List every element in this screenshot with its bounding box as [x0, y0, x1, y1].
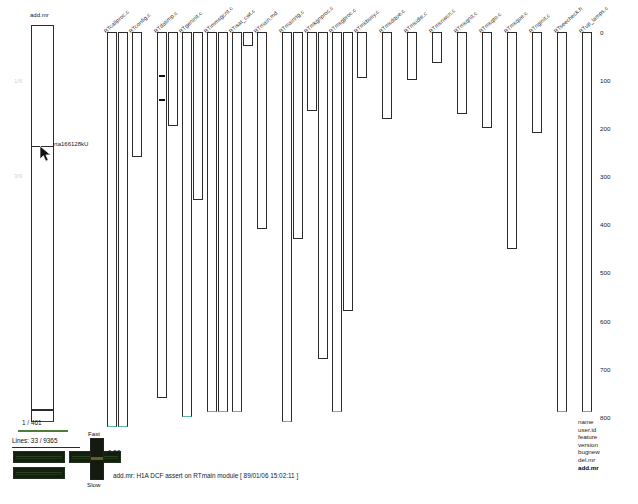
file-column-segment[interactable]	[557, 32, 567, 412]
file-column-segment[interactable]	[432, 32, 442, 63]
panel-button-1[interactable]	[13, 451, 65, 463]
speed-slider-track[interactable]	[90, 438, 104, 480]
file-column-segment[interactable]	[407, 32, 417, 80]
file-column-segment[interactable]	[482, 32, 492, 128]
change-line-marker[interactable]	[159, 75, 165, 77]
file-column-segment[interactable]	[332, 32, 342, 412]
legend-item-version[interactable]: version	[578, 441, 600, 449]
legend-item-bugnew[interactable]: bugnew	[578, 448, 600, 456]
change-line-marker[interactable]	[159, 99, 165, 101]
legend-item-del-mr[interactable]: del.mr	[578, 456, 600, 464]
file-column-segment[interactable]	[318, 32, 328, 359]
file-column-segment[interactable]	[382, 32, 392, 119]
speed-slider-thumb[interactable]	[91, 457, 103, 460]
file-column-segment[interactable]	[168, 32, 178, 126]
page-progress-bar[interactable]	[18, 430, 68, 432]
file-column-segment[interactable]	[582, 32, 592, 412]
axis-tick-300: 300	[600, 173, 610, 180]
file-column-segment[interactable]	[182, 32, 192, 417]
arrow-cursor-icon	[40, 146, 53, 163]
legend-item-feature[interactable]: feature	[578, 433, 600, 441]
axis-tick-700: 700	[600, 366, 610, 373]
file-column-segment[interactable]	[507, 32, 517, 249]
file-column-label: RTdatimp.c	[153, 11, 179, 35]
line-counter: Lines: 33 / 9365	[12, 437, 57, 444]
file-column-segment[interactable]	[107, 32, 117, 427]
axis-tick-500: 500	[600, 269, 610, 276]
speed-slow-label: Slow	[87, 481, 100, 488]
file-column-segment[interactable]	[232, 32, 242, 412]
summary-ghost-label-top: 1/6	[14, 78, 22, 84]
file-column-segment[interactable]	[282, 32, 292, 422]
legend-item-add-mr[interactable]: add.mr	[578, 464, 600, 472]
attribute-legend: nameuser.idfeatureversionbugnewdel.mradd…	[578, 418, 600, 471]
file-column-segment[interactable]	[357, 32, 367, 78]
file-column-label: RTmsbusy.c	[353, 9, 380, 34]
panel-button-3[interactable]	[13, 467, 65, 479]
seesoft-visualization-window: add.mr 1/6 3/9 rta166128kU RTcallproc.cR…	[0, 0, 638, 504]
file-column-segment[interactable]	[343, 32, 353, 311]
page-counter: 1 / 461	[22, 419, 42, 426]
file-column-segment[interactable]	[157, 32, 167, 398]
status-message: add.mr: H1A DCF assert on RTmain module …	[113, 472, 298, 479]
legend-item-name[interactable]: name	[578, 418, 600, 426]
file-column-segment[interactable]	[193, 32, 203, 200]
file-column-segment[interactable]	[532, 32, 542, 133]
summary-column-title: add.mr	[30, 12, 49, 18]
file-column-segment[interactable]	[293, 32, 303, 239]
axis-tick-600: 600	[600, 318, 610, 325]
file-column-segment[interactable]	[118, 32, 128, 427]
file-column-segment[interactable]	[132, 32, 142, 157]
file-column-label: RTmsnwcn.c	[428, 8, 456, 34]
file-column-segment[interactable]	[243, 32, 253, 46]
axis-tick-0: 0	[600, 29, 603, 36]
file-column-label: RTisat_cwt.c	[228, 8, 256, 34]
file-column-segment[interactable]	[307, 32, 317, 111]
file-column-segment[interactable]	[457, 32, 467, 114]
axis-tick-200: 200	[600, 125, 610, 132]
hover-tooltip: rta166128kU	[54, 141, 88, 147]
legend-item-user-id[interactable]: user.id	[578, 426, 600, 434]
file-column-label: RTmain.md	[253, 11, 279, 35]
axis-tick-400: 400	[600, 221, 610, 228]
axis-tick-800: 800	[600, 414, 610, 421]
axis-tick-100: 100	[600, 77, 610, 84]
summary-ghost-label-bottom: 3/9	[14, 173, 22, 179]
summary-column-bar[interactable]	[31, 25, 54, 410]
speed-fast-label: Fast	[88, 430, 100, 437]
file-column-segment[interactable]	[218, 32, 228, 412]
file-column-segment[interactable]	[207, 32, 217, 412]
line-counter-underline	[12, 447, 80, 448]
speed-value: 0.50	[108, 449, 120, 456]
file-column-label: RTmainrtg.c	[278, 9, 305, 34]
file-column-label: RTcallproc.c	[103, 9, 130, 34]
file-column-label: RTmsdque.c	[378, 9, 406, 35]
file-column-segment[interactable]	[257, 32, 267, 229]
